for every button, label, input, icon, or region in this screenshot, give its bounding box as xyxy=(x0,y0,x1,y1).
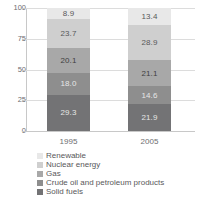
legend-item-label: Renewable xyxy=(46,151,86,160)
x-axis-line xyxy=(26,131,195,132)
legend-swatch-icon xyxy=(37,189,43,195)
bar-segment: 29.3 xyxy=(47,95,90,131)
legend-item-label: Nuclear energy xyxy=(46,160,100,169)
bar-segment-value-label: 20.1 xyxy=(61,56,77,65)
bar-segment: 13.4 xyxy=(128,8,171,24)
bar-segment-value-label: 18.0 xyxy=(61,79,77,88)
legend-item[interactable]: Nuclear energy xyxy=(37,160,198,169)
stacked-bar-chart: 0255075100 8.923.720.118.029.313.428.921… xyxy=(0,0,198,197)
bar-segment: 8.9 xyxy=(47,8,90,19)
bar-2005: 13.428.921.114.621.9 xyxy=(128,8,171,131)
bar-segment-value-label: 14.6 xyxy=(142,91,158,100)
bar-1995: 8.923.720.118.029.3 xyxy=(47,8,90,131)
legend-swatch-icon xyxy=(37,162,43,168)
legend-item[interactable]: Crude oil and petroleum products xyxy=(37,178,198,187)
bar-segment: 14.6 xyxy=(128,86,171,104)
bar-segment: 21.1 xyxy=(128,60,171,86)
bar-segment-value-label: 8.9 xyxy=(63,9,74,18)
bar-segment: 18.0 xyxy=(47,73,90,95)
bar-segment: 23.7 xyxy=(47,19,90,48)
y-axis-tick-mark xyxy=(22,131,26,132)
legend-item-label: Solid fuels xyxy=(46,187,83,196)
legend-swatch-icon xyxy=(37,180,43,186)
bar-segment-value-label: 21.1 xyxy=(142,69,158,78)
bar-segment: 20.1 xyxy=(47,48,90,73)
legend-item[interactable]: Solid fuels xyxy=(37,187,198,196)
bar-segment-value-label: 29.3 xyxy=(61,108,77,117)
x-axis-tick-label-1995: 1995 xyxy=(39,137,99,146)
x-axis-tick-label-2005: 2005 xyxy=(120,137,180,146)
legend-item-label: Gas xyxy=(46,169,61,178)
legend-swatch-icon xyxy=(37,153,43,159)
bar-segment-value-label: 28.9 xyxy=(142,38,158,47)
bar-segment: 28.9 xyxy=(128,25,171,61)
legend-item[interactable]: Renewable xyxy=(37,151,198,160)
bar-segment-value-label: 13.4 xyxy=(142,12,158,21)
bar-segment-value-label: 21.9 xyxy=(142,113,158,122)
legend-item[interactable]: Gas xyxy=(37,169,198,178)
bar-segment-value-label: 23.7 xyxy=(61,29,77,38)
y-axis: 0255075100 xyxy=(0,0,26,197)
bar-segment: 21.9 xyxy=(128,104,171,131)
legend-item-label: Crude oil and petroleum products xyxy=(46,178,164,187)
legend: RenewableNuclear energyGasCrude oil and … xyxy=(37,151,198,196)
legend-swatch-icon xyxy=(37,171,43,177)
